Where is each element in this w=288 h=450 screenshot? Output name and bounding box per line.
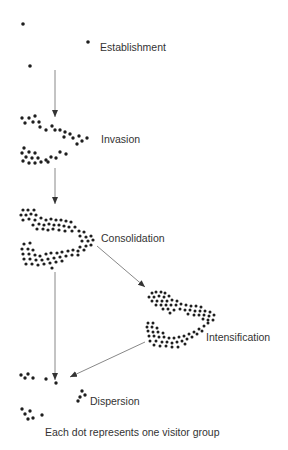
arrow-consolidation-to-intensification xyxy=(97,246,145,287)
invasion-dots xyxy=(20,114,88,164)
stage-label-intensification: Intensification xyxy=(206,331,270,343)
stage-label-establishment: Establishment xyxy=(100,41,166,53)
dispersion-dots xyxy=(19,372,86,420)
stage-label-dispersion: Dispersion xyxy=(90,395,140,407)
consolidation-dots xyxy=(19,208,94,269)
arrow-intensification-to-dispersion xyxy=(70,342,145,377)
intensification-dots xyxy=(146,291,216,349)
establishment-dots xyxy=(21,22,90,68)
stage-label-invasion: Invasion xyxy=(101,133,140,145)
visitor-evolution-diagram xyxy=(0,0,288,450)
legend-caption: Each dot represents one visitor group xyxy=(45,426,220,438)
stage-label-consolidation: Consolidation xyxy=(101,232,165,244)
